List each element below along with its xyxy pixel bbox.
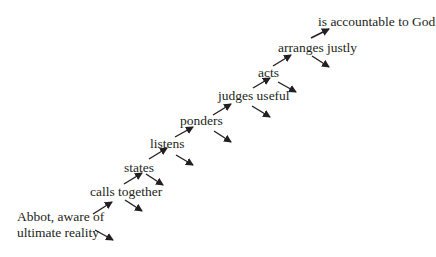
step-acts: acts bbox=[258, 66, 279, 80]
arrow-up-arranges-justly bbox=[311, 29, 329, 38]
arrow-down-calls-together bbox=[125, 200, 142, 211]
arrow-down-ponders bbox=[214, 131, 231, 142]
arrow-down-judges-useful bbox=[252, 106, 270, 117]
arrow-down-arranges-justly bbox=[312, 56, 329, 67]
step-states: states bbox=[124, 161, 154, 175]
step-arranges-justly: arranges justly bbox=[278, 41, 357, 55]
step-judges-useful: judges useful bbox=[218, 89, 290, 103]
arrow-down-listens bbox=[176, 155, 193, 165]
step-abbot-line1: Abbot, aware of bbox=[17, 210, 104, 224]
step-ponders: ponders bbox=[180, 114, 223, 128]
step-listens: listens bbox=[150, 137, 185, 151]
step-accountable-to-god: is accountable to God bbox=[318, 15, 435, 29]
step-abbot-line2: ultimate reality bbox=[17, 226, 99, 240]
step-calls-together: calls together bbox=[90, 185, 162, 199]
